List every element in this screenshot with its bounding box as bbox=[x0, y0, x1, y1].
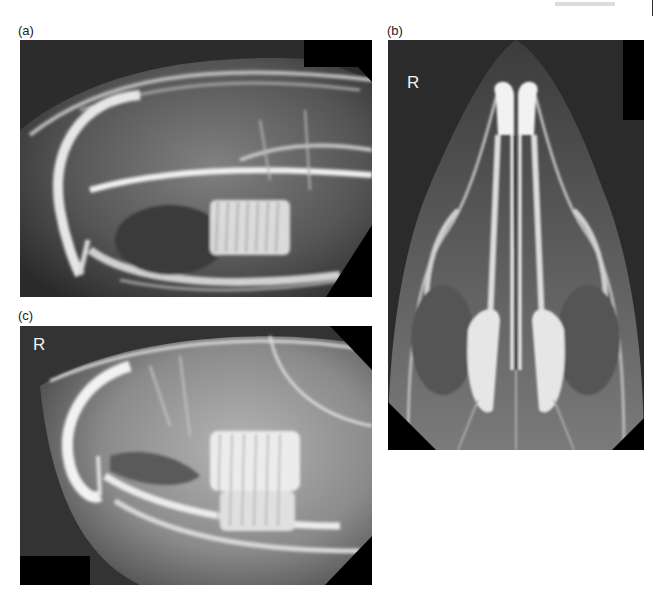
skull-lateral-xray bbox=[20, 40, 372, 297]
panel-b-radiograph: R bbox=[388, 40, 644, 450]
panel-c-label: (c) bbox=[18, 309, 33, 323]
skull-oblique-xray bbox=[20, 326, 372, 585]
skull-dorsoventral-xray bbox=[388, 40, 644, 450]
panel-a-radiograph bbox=[20, 40, 372, 297]
orientation-marker-right: R bbox=[407, 74, 419, 92]
panel-c-radiograph: R bbox=[20, 326, 372, 585]
running-header-rule bbox=[652, 0, 653, 16]
running-header-text bbox=[555, 2, 615, 6]
panel-a-label: (a) bbox=[18, 24, 34, 38]
panel-b-label: (b) bbox=[387, 24, 403, 38]
orientation-marker-right: R bbox=[33, 336, 45, 354]
